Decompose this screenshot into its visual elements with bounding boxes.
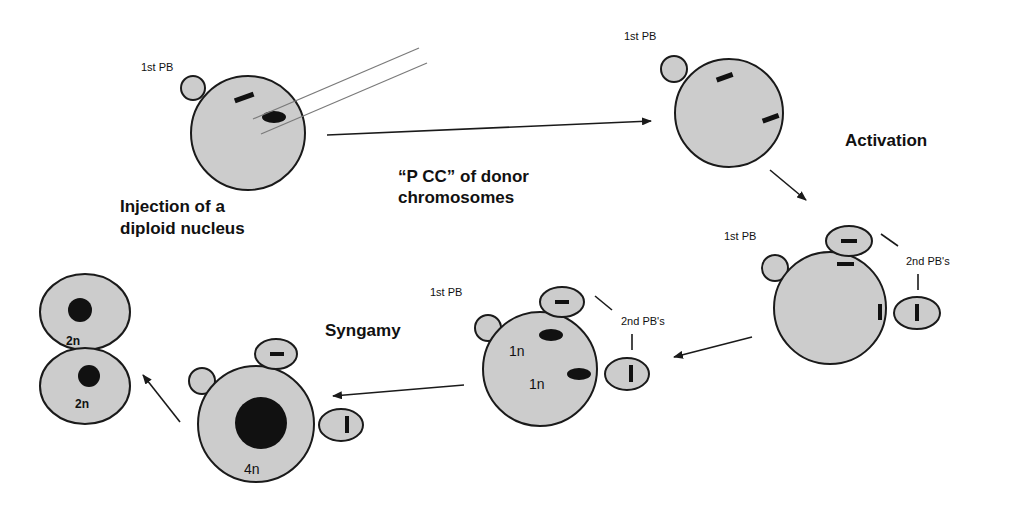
caption-injection: Injection of a <box>120 197 225 216</box>
blastomere-nucleus <box>68 298 92 322</box>
second-pb-label: 2nd PB's <box>906 255 950 267</box>
arrow-pcc-to-activated <box>770 170 806 200</box>
pronucleus <box>539 329 563 341</box>
step-pcc-label-2: chromosomes <box>398 188 514 207</box>
caption-injection-2: diploid nucleus <box>120 219 245 238</box>
chromosome <box>841 239 857 243</box>
pointer-line <box>881 234 898 246</box>
blastomere-label: 2n <box>66 334 80 348</box>
nuclear-transfer-diagram: 1st PB Injection of a diploid nucleus “P… <box>0 0 1015 507</box>
pronucleus-label: 1n <box>509 343 525 359</box>
arrow-zygote-to-two-cell <box>143 375 180 422</box>
blastomere-nucleus <box>78 365 100 387</box>
stage-injection: 1st PB Injection of a diploid nucleus <box>120 48 427 238</box>
pointer-line <box>595 296 612 310</box>
first-pb-label: 1st PB <box>624 30 656 42</box>
arrow-injection-to-pcc <box>327 121 651 135</box>
chromosome <box>555 300 569 304</box>
stage-zygote: 4n <box>189 339 363 482</box>
chromosome <box>345 416 349 433</box>
first-pb-label: 1st PB <box>141 61 173 73</box>
stage-pcc: 1st PB <box>624 30 783 167</box>
step-syngamy-label: Syngamy <box>325 321 401 340</box>
first-polar-body <box>181 76 205 100</box>
first-pb-label: 1st PB <box>430 286 462 298</box>
chromosome <box>878 304 882 320</box>
blastomere-label: 2n <box>75 397 89 411</box>
step-pcc-label: “P CC” of donor <box>398 167 529 186</box>
second-polar-body <box>319 409 363 441</box>
step-activation-label: Activation <box>845 131 927 150</box>
nucleus-label: 4n <box>244 461 260 477</box>
stage-pronuclei: 1st PB 1n 1n 2nd PB's <box>430 286 665 426</box>
arrow-pronuclei-to-zygote <box>333 385 464 396</box>
donor-nucleus <box>262 111 286 123</box>
second-pb-label: 2nd PB's <box>621 315 665 327</box>
arrow-activated-to-pronuclei <box>674 337 752 357</box>
second-polar-body <box>605 358 649 390</box>
pronucleus-label: 1n <box>529 376 545 392</box>
chromosome <box>915 304 919 321</box>
stage-two-cell: 2n 2n <box>40 274 130 424</box>
stage-activated: 1st PB 2nd PB's <box>724 226 950 364</box>
pronucleus <box>567 368 591 380</box>
first-polar-body <box>661 56 687 82</box>
zygote-nucleus <box>235 397 287 449</box>
chromosome <box>837 262 854 266</box>
first-pb-label: 1st PB <box>724 230 756 242</box>
chromosome <box>270 352 284 356</box>
oocyte <box>774 252 886 364</box>
chromosome <box>629 365 633 382</box>
oocyte <box>191 76 305 190</box>
